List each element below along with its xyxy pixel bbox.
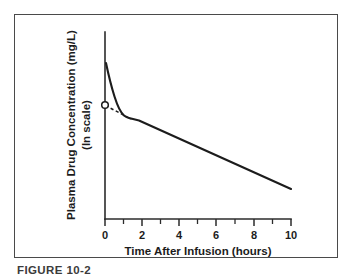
figure-caption: FIGURE 10-2 xyxy=(17,264,91,276)
x-tick-label-0: 0 xyxy=(102,229,108,241)
x-tick-label-6: 6 xyxy=(213,229,219,241)
figure-frame: 0 2 4 6 8 10 Time After Infusion (hours)… xyxy=(14,14,338,258)
y-intercept-marker xyxy=(102,102,109,109)
x-tick-label-4: 4 xyxy=(176,229,183,241)
plot-canvas: 0 2 4 6 8 10 Time After Infusion (hours)… xyxy=(15,15,339,259)
x-tick-label-10: 10 xyxy=(285,229,297,241)
x-tick-label-2: 2 xyxy=(139,229,145,241)
concentration-time-curve xyxy=(106,63,291,189)
x-axis-title: Time After Infusion (hours) xyxy=(125,245,272,257)
y-axis-title: Plasma Drug Concentration (mg/L) xyxy=(65,30,77,220)
y-axis-title-scale: (ln scale) xyxy=(80,100,92,150)
x-tick-label-8: 8 xyxy=(251,229,257,241)
